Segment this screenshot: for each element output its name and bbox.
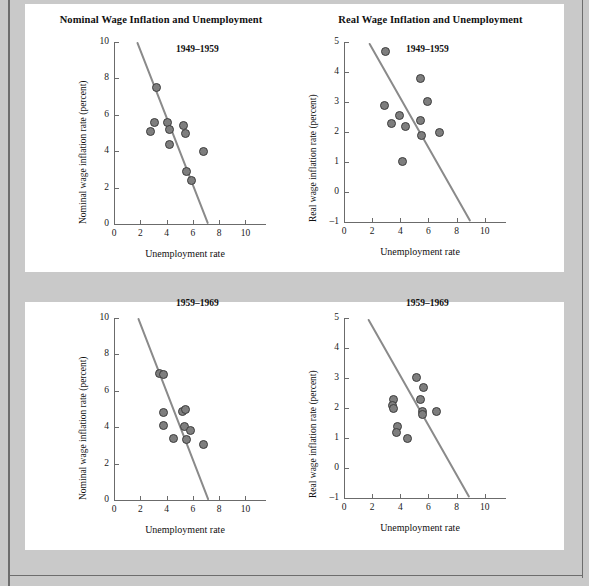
x-tick-label: 4 [388,226,412,236]
x-tick [485,218,486,222]
x-axis-label: Unemployment rate [324,522,516,533]
x-tick-label: 10 [233,504,257,514]
y-tick-label: 0 [320,186,339,196]
x-tick [457,494,458,498]
data-point [416,74,425,83]
x-tick-label: 2 [128,228,152,238]
x-tick-label: 6 [181,228,205,238]
y-axis-label: Nominal wage inflation rate (percent) [78,81,88,225]
y-tick-label: 4 [320,66,339,76]
period-label: 1959–1969 [176,298,219,308]
x-tick-label: 6 [181,504,205,514]
x-tick [219,220,220,224]
data-point [152,83,161,92]
y-tick [115,464,119,465]
x-tick [140,220,141,224]
chart-real-1949-1959: 1949–19590246810–1012345Unemployment rat… [297,4,564,272]
data-point [159,421,168,430]
x-tick-label: 8 [207,228,231,238]
x-tick-label: 2 [360,226,384,236]
x-tick [457,218,458,222]
y-tick [115,151,119,152]
data-point [401,122,410,131]
y-tick [115,188,119,189]
x-tick-label: 4 [155,228,179,238]
x-tick-label: 10 [473,502,497,512]
y-tick [345,192,349,193]
panel-top: Nominal Wage Inflation and Unemployment … [25,4,564,272]
y-tick [115,78,119,79]
data-point [403,434,412,443]
data-point [432,407,441,416]
data-point [435,128,444,137]
y-tick [115,427,119,428]
y-tick-label: 4 [90,145,109,155]
x-tick-label: 0 [332,226,356,236]
y-tick [345,222,349,223]
x-tick-label: 10 [473,226,497,236]
trend-line [137,318,210,501]
data-point [146,127,155,136]
y-tick-label: 8 [90,72,109,82]
x-axis-line [114,224,266,225]
x-axis-line [344,498,506,499]
y-tick-label: 8 [90,348,109,358]
data-point [392,428,401,437]
x-tick-label: 4 [388,502,412,512]
data-point [416,395,425,404]
y-axis-label: Real wage inflation rate (percent) [308,370,318,498]
y-tick-label: 2 [90,182,109,192]
data-point [389,404,398,413]
data-point [150,118,159,127]
y-axis-line [114,318,115,500]
x-tick [400,218,401,222]
x-tick-label: 4 [155,504,179,514]
y-tick-label: 3 [320,372,339,382]
x-tick [428,494,429,498]
x-tick-label: 6 [416,502,440,512]
data-point [165,140,174,149]
data-point [380,101,389,110]
x-tick-label: 8 [445,502,469,512]
data-point [395,111,404,120]
x-tick [140,496,141,500]
x-tick [167,220,168,224]
data-point [159,370,168,379]
x-axis-line [344,222,506,223]
x-axis-label: Unemployment rate [94,248,276,259]
y-tick-label: 2 [90,458,109,468]
y-tick-label: 2 [320,126,339,136]
y-tick [115,318,119,319]
mat-right-border [582,0,584,578]
y-tick [345,102,349,103]
data-point [199,147,208,156]
x-axis-label: Unemployment rate [324,246,516,257]
y-tick-label: 4 [320,342,339,352]
x-tick-label: 0 [332,502,356,512]
data-point [412,373,421,382]
y-tick-label: 10 [90,312,109,322]
x-tick-label: 10 [233,228,257,238]
chart-nominal-1949-1959: 1949–195902468100246810Unemployment rate… [25,4,297,272]
x-tick [245,496,246,500]
y-axis-label: Real wage inflation rate (percent) [308,94,318,222]
y-tick [115,42,119,43]
chart-nominal-1959-1969: 1959–196902468100246810Unemployment rate… [25,302,297,550]
y-tick [115,115,119,116]
x-tick-label: 8 [207,504,231,514]
y-tick-label: 0 [90,218,109,228]
data-point [416,116,425,125]
x-tick-label: 2 [360,502,384,512]
y-axis-line [114,42,115,224]
data-point [419,383,428,392]
y-tick-label: 0 [90,494,109,504]
y-tick-label: 10 [90,36,109,46]
x-tick [372,494,373,498]
x-tick-label: 6 [416,226,440,236]
data-point [181,405,190,414]
x-tick [193,496,194,500]
y-tick-label: 3 [320,96,339,106]
y-tick [345,348,349,349]
data-point [182,167,191,176]
data-point [159,408,168,417]
